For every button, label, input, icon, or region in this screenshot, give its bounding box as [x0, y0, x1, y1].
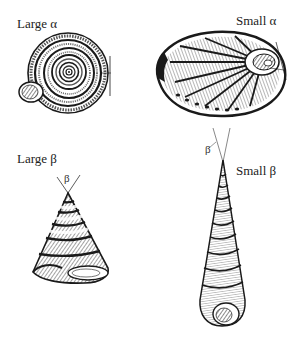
- label-large-beta: Large β: [17, 152, 57, 165]
- abalone-shell: [157, 32, 286, 116]
- label-large-alpha: Large α: [17, 17, 57, 30]
- trochus-shell: [33, 175, 108, 283]
- label-small-alpha: Small α: [236, 14, 276, 27]
- turritella-shell: [200, 128, 245, 326]
- beta-angle-mark-large: β: [64, 173, 70, 184]
- label-small-beta: Small β: [236, 164, 276, 177]
- beta-angle-mark-small: β: [205, 144, 211, 155]
- planispiral-shell: [19, 33, 111, 113]
